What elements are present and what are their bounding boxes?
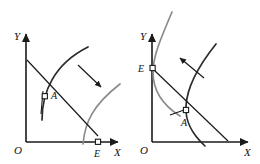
left-point-a-label: A <box>50 90 58 101</box>
left-x-axis-label: X <box>113 146 122 158</box>
right-point-a-marker <box>183 107 188 112</box>
left-point-e-marker <box>95 139 100 144</box>
left-point-e-label: E <box>93 148 100 159</box>
right-origin-label: O <box>140 144 148 156</box>
figure-container: Y X O A E Y X O E A <box>0 0 260 164</box>
left-origin-label: O <box>14 144 22 156</box>
right-point-e-label: E <box>137 63 144 74</box>
right-x-axis-label: X <box>243 146 252 158</box>
diagram-svg: Y X O A E Y X O E A <box>0 0 260 164</box>
figure-background <box>0 0 260 164</box>
left-point-a-marker <box>42 94 47 99</box>
right-point-a-label: A <box>180 117 188 128</box>
right-point-e-marker <box>150 65 155 70</box>
